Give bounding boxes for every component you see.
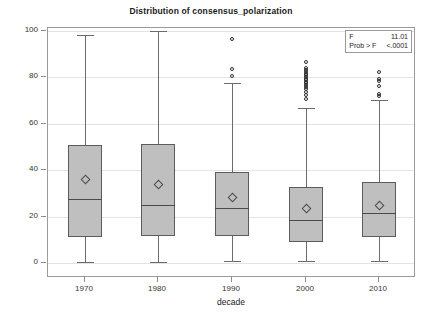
median-line — [362, 213, 396, 214]
whisker-cap-upper — [77, 35, 94, 36]
f-value: 11.01 — [391, 32, 408, 41]
f-label: F — [349, 32, 363, 41]
median-line — [289, 220, 323, 221]
whisker-cap-lower — [150, 262, 167, 263]
outlier-point — [377, 84, 381, 88]
prob-label: Prob > F — [349, 41, 386, 50]
outlier-point — [230, 37, 234, 41]
whisker-lower — [306, 242, 307, 261]
outlier-point — [230, 67, 234, 71]
box-iqr — [68, 145, 102, 237]
whisker-upper — [306, 108, 307, 188]
whisker-upper — [232, 83, 233, 172]
whisker-lower — [158, 236, 159, 262]
x-tick-mark-1970 — [84, 277, 85, 282]
whisker-cap-upper — [150, 31, 167, 32]
whisker-cap-lower — [371, 261, 388, 262]
y-tick-mark-60 — [41, 123, 46, 124]
gridline-60 — [48, 124, 414, 125]
gridline-0 — [48, 263, 414, 264]
gridline-40 — [48, 170, 414, 171]
y-tick-label-0: 0 — [0, 257, 38, 266]
y-tick-label-60: 60 — [0, 118, 38, 127]
prob-value: <.0001 — [386, 41, 408, 50]
y-tick-mark-100 — [41, 30, 46, 31]
whisker-upper — [85, 35, 86, 145]
y-tick-mark-40 — [41, 169, 46, 170]
x-tick-label-1990: 1990 — [201, 284, 261, 293]
whisker-lower — [85, 237, 86, 263]
whisker-cap-lower — [77, 262, 94, 263]
stats-row-prob: Prob > F <.0001 — [349, 41, 408, 50]
whisker-cap-lower — [298, 261, 315, 262]
y-tick-mark-0 — [41, 262, 46, 263]
x-tick-mark-2010 — [378, 277, 379, 282]
y-tick-label-100: 100 — [0, 25, 38, 34]
median-line — [68, 199, 102, 200]
x-tick-mark-1980 — [157, 277, 158, 282]
y-tick-mark-80 — [41, 76, 46, 77]
whisker-cap-upper — [371, 100, 388, 101]
whisker-cap-upper — [224, 83, 241, 84]
whisker-upper — [379, 100, 380, 181]
page-title: Distribution of consensus_polarization — [0, 6, 422, 16]
box-iqr — [289, 187, 323, 242]
box-iqr — [215, 172, 249, 236]
boxplot-figure: Distribution of consensus_polarization c… — [0, 0, 422, 316]
outlier-point — [304, 66, 308, 70]
x-tick-label-2010: 2010 — [348, 284, 408, 293]
median-line — [215, 208, 249, 209]
x-tick-label-1970: 1970 — [54, 284, 114, 293]
y-tick-label-20: 20 — [0, 211, 38, 220]
whisker-cap-upper — [298, 108, 315, 109]
outlier-point — [304, 97, 308, 101]
x-tick-mark-2000 — [305, 277, 306, 282]
whisker-cap-lower — [224, 261, 241, 262]
stats-row-f: F 11.01 — [349, 32, 408, 41]
plot-area: F 11.01 Prob > F <.0001 — [47, 27, 415, 277]
y-tick-label-80: 80 — [0, 71, 38, 80]
whisker-lower — [232, 236, 233, 262]
y-tick-label-40: 40 — [0, 164, 38, 173]
y-tick-mark-20 — [41, 216, 46, 217]
whisker-upper — [158, 31, 159, 144]
stats-box: F 11.01 Prob > F <.0001 — [345, 30, 412, 53]
outlier-point — [377, 70, 381, 74]
outlier-point — [304, 60, 308, 64]
x-tick-label-2000: 2000 — [275, 284, 335, 293]
median-line — [141, 205, 175, 206]
x-axis-label: decade — [47, 297, 415, 307]
x-tick-mark-1990 — [231, 277, 232, 282]
x-tick-label-1980: 1980 — [127, 284, 187, 293]
whisker-lower — [379, 237, 380, 260]
